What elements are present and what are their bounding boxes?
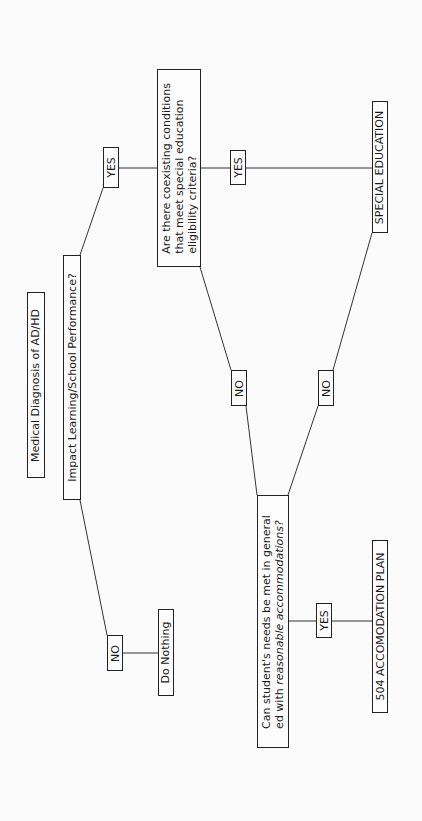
can-needs-line2-prefix: ed with (273, 684, 286, 728)
root-node-medical-diagnosis: Medical Diagnosis of AD/HD (27, 292, 45, 478)
label-yes-coexisting: YES (230, 150, 246, 185)
outcome-special-education: SPECIAL EDUCATION (372, 101, 388, 233)
special-ed-text: SPECIAL EDUCATION (374, 110, 387, 223)
no-coexisting-text: NO (233, 380, 246, 397)
no-impact-text: NO (109, 645, 122, 662)
decision-impact-learning: Impact Learning/School Performance? (63, 255, 81, 500)
decision-impact-label: Impact Learning/School Performance? (66, 273, 79, 482)
plan-504-text: 504 ACCOMODATION PLAN (374, 552, 387, 700)
root-node-label: Medical Diagnosis of AD/HD (30, 308, 43, 461)
yes-impact-text: YES (105, 157, 118, 178)
label-yes-impact: YES (103, 147, 119, 188)
can-needs-label: Can student's needs be met in general ed… (260, 515, 286, 729)
can-needs-line2-italic: reasonable accommodations? (273, 520, 286, 685)
no-can-needs-text: NO (320, 380, 333, 397)
label-no-coexisting: NO (231, 370, 247, 406)
decision-coexisting-conditions: Are there coexisting conditions that mee… (157, 69, 201, 267)
outcome-do-nothing: Do Nothing (158, 609, 174, 696)
do-nothing-text: Do Nothing (160, 622, 173, 684)
label-no-impact: NO (107, 635, 123, 671)
label-no-can-needs: NO (318, 370, 334, 406)
can-needs-line1: Can student's needs be met in general (260, 515, 273, 729)
label-yes-can-needs: YES (316, 603, 332, 638)
outcome-504-plan: 504 ACCOMODATION PLAN (372, 540, 388, 713)
yes-can-needs-text: YES (318, 610, 331, 631)
decision-can-needs-be-met: Can student's needs be met in general ed… (257, 495, 289, 748)
yes-coexisting-text: YES (232, 157, 245, 178)
coexisting-label: Are there coexisting conditions that mee… (160, 83, 199, 254)
